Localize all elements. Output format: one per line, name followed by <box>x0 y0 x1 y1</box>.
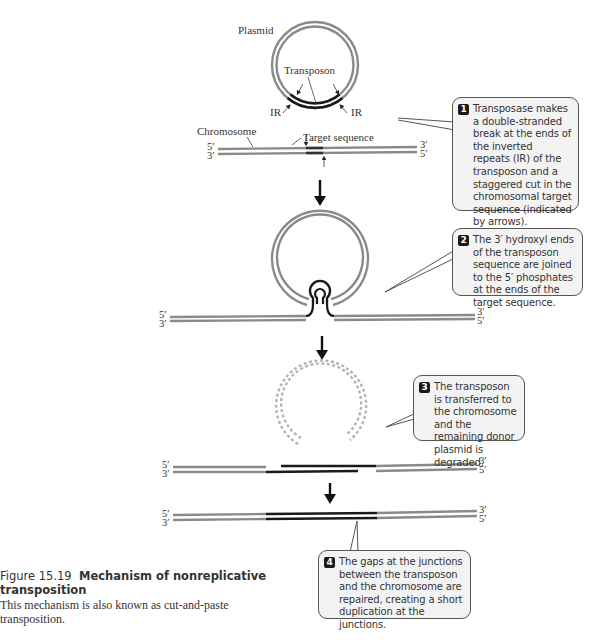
step1-chromosome <box>218 147 417 154</box>
callout1-pointer <box>398 118 455 130</box>
callout-step-2: 2 The 3′ hydroxyl ends of the transposon… <box>452 228 583 296</box>
callout-step-1: 1 Transposase makes a double-stranded br… <box>452 97 579 211</box>
ir-right-label: IR <box>351 106 363 118</box>
target-leader-line <box>292 138 301 145</box>
arrow-down-icon <box>314 196 326 206</box>
plasmid-label: Plasmid <box>238 24 274 36</box>
strand-end-label: 3′ <box>162 468 170 479</box>
step2-chromosome <box>170 315 475 321</box>
figure-number: Figure 15.19 <box>0 569 72 583</box>
transposon-leader-line <box>308 77 316 103</box>
step2-plasmid-loop <box>272 211 368 316</box>
callout-step-4: 4 The gaps at the junctions between the … <box>318 550 471 619</box>
callout-step-3: 3 The transposon is transferred to the c… <box>413 375 525 441</box>
ir-left-label: IR <box>270 106 282 118</box>
figure-description: This mechanism is also known as cut-and-… <box>0 598 270 626</box>
arrow-down-icon <box>324 494 336 504</box>
strand-end-label: 5′ <box>477 315 485 326</box>
callout-text: The gaps at the junctions between the tr… <box>339 556 462 630</box>
step-badge: 4 <box>324 557 335 568</box>
strand-end-label: 5′ <box>479 513 487 524</box>
step-badge: 3 <box>419 382 430 393</box>
callout-text: Transposase makes a double-stranded brea… <box>473 103 572 227</box>
figure-caption: Figure 15.19 Mechanism of nonreplicative… <box>0 569 270 626</box>
strand-end-label: 3′ <box>162 517 170 528</box>
chromosome-leader-line <box>247 137 253 147</box>
step3-chromosome <box>173 464 477 472</box>
strand-end-label: 5′ <box>420 148 428 159</box>
callout2-pointer <box>385 250 455 292</box>
step-badge: 2 <box>458 235 469 246</box>
target-sequence-label: Target sequence <box>303 131 374 143</box>
step-badge: 1 <box>458 104 469 115</box>
arrow-down-icon <box>316 350 328 360</box>
strand-end-label: 3′ <box>159 318 167 329</box>
transposon-label: Transposon <box>284 64 335 76</box>
strand-end-label: 3′ <box>207 150 215 161</box>
degraded-plasmid <box>276 360 366 444</box>
callout4-pointer <box>350 521 358 552</box>
step4-chromosome <box>173 511 477 520</box>
chromosome-label: Chromosome <box>197 125 256 137</box>
